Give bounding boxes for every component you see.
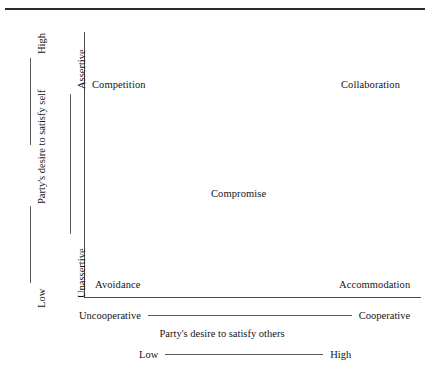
horizontal-outer-rule — [165, 354, 323, 355]
axis-title-horizontal: Party's desire to satisfy others — [0, 328, 444, 339]
quadrant-label-competition: Competition — [92, 79, 146, 90]
vertical-axis-outer-scale: High Party's desire to satisfy self Low — [23, 18, 39, 308]
vertical-outer-rule-upper — [30, 58, 31, 145]
plot-bottom-axis-line — [84, 297, 421, 298]
axis-label-vertical-low: Low — [36, 289, 47, 308]
horizontal-axis-outer-scale: Low High — [139, 349, 351, 360]
axis-label-uncooperative: Uncooperative — [79, 310, 141, 321]
vertical-axis-inner-scale: Assertive Unassertive — [63, 32, 79, 298]
axis-label-horizontal-high: High — [330, 349, 351, 360]
axis-label-horizontal-low: Low — [139, 349, 158, 360]
axis-label-vertical-high: High — [36, 33, 47, 54]
axis-title-vertical: Party's desire to satisfy self — [36, 90, 47, 204]
axis-label-unassertive: Unassertive — [76, 248, 87, 298]
axis-label-assertive: Assertive — [76, 49, 87, 89]
vertical-outer-rule-lower — [30, 206, 31, 283]
top-horizontal-rule — [5, 8, 425, 10]
quadrant-label-compromise: Compromise — [211, 188, 266, 199]
horizontal-axis-inner-scale: Uncooperative Cooperative — [79, 310, 410, 321]
vertical-inner-rule — [70, 94, 71, 234]
conflict-styles-diagram: Assertive Unassertive High Party's desir… — [0, 0, 444, 383]
quadrant-label-avoidance: Avoidance — [95, 279, 141, 290]
quadrant-label-collaboration: Collaboration — [341, 79, 400, 90]
quadrant-label-accommodation: Accommodation — [339, 279, 410, 290]
axis-label-cooperative: Cooperative — [359, 310, 410, 321]
horizontal-inner-rule — [148, 315, 352, 316]
